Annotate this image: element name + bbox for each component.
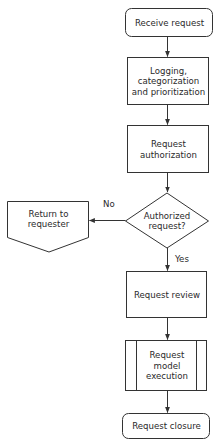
edge-label-no: No bbox=[103, 199, 115, 209]
edge-label-yes: Yes bbox=[175, 254, 189, 264]
label-request-authorization: Request authorization bbox=[128, 126, 209, 173]
label-request-review: Request review bbox=[127, 272, 207, 318]
label-return-to-requester: Return to requester bbox=[8, 202, 89, 236]
label-logging: Logging, categorization and prioritizati… bbox=[128, 58, 209, 105]
label-request-closure: Request closure bbox=[123, 414, 210, 439]
label-receive-request: Receive request bbox=[126, 9, 213, 37]
label-request-model-execution: Request model execution bbox=[137, 341, 197, 391]
label-authorized-decision: Authorized request? bbox=[132, 205, 202, 237]
